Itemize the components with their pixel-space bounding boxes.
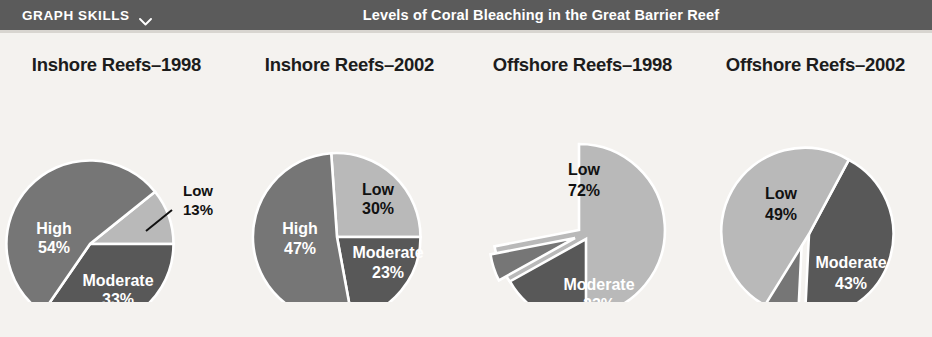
chevron-down-icon[interactable] [139,12,152,20]
pie-chart-offshore-2002: Low 49% Moderate 43% High 8% [699,82,932,302]
pie-chart-offshore-1998: Low 72% Moderate 23% High 5% [466,82,699,302]
pie-label-moderate-value: 23% [583,296,615,302]
pie-label-high-name: High [282,220,318,237]
pie-panel-inshore-1998: Inshore Reefs–1998 High 54% Moderate 33% [0,34,233,337]
pie-label-moderate-name: Moderate [352,244,423,261]
graph-skills-toggle[interactable]: GRAPH SKILLS [22,8,152,23]
pie-label-high-value: 47% [284,240,316,257]
pie-chart-title: Offshore Reefs–2002 [699,54,932,76]
pie-label-moderate-name: Moderate [563,276,634,293]
pie-chart-inshore-2002: Low 30% Moderate 23% High 47% [233,82,466,302]
pie-panel-offshore-1998: Offshore Reefs–1998 Low 72% Moderate 23% [466,34,699,337]
pie-label-moderate-value: 23% [372,264,404,281]
pie-label-moderate-name: Moderate [82,272,153,289]
pie-label-low-value: 49% [765,206,797,223]
pie-chart-inshore-1998: High 54% Moderate 33% Low 13% [0,82,233,302]
pie-label-moderate-value: 43% [835,275,867,292]
pie-chart-title: Inshore Reefs–1998 [0,54,233,76]
graph-skills-header-bar: GRAPH SKILLS Levels of Coral Bleaching i… [0,0,932,30]
pie-label-high-name: High [36,220,72,237]
pie-label-low-name: Low [362,181,395,198]
pie-panel-inshore-2002: Inshore Reefs–2002 Low 30% Moderate 23% … [233,34,466,337]
pie-label-low-name: Low [568,161,601,178]
pie-label-low-value: 72% [568,182,600,199]
pie-label-high-value: 54% [38,239,70,256]
pie-slices [721,148,893,302]
pie-label-moderate-value: 33% [102,291,134,302]
graph-skills-label: GRAPH SKILLS [22,8,130,23]
pie-label-low-value: 13% [183,201,213,218]
pie-label-low-name: Low [183,182,213,199]
pie-label-moderate-name: Moderate [815,254,886,271]
pie-chart-title: Offshore Reefs–1998 [466,54,699,76]
pie-label-low-name: Low [765,185,798,202]
pie-label-low-value: 30% [362,200,394,217]
pie-chart-title: Inshore Reefs–2002 [233,54,466,76]
pie-panel-offshore-2002: Offshore Reefs–2002 Low 49% Moderate 43% [699,34,932,337]
